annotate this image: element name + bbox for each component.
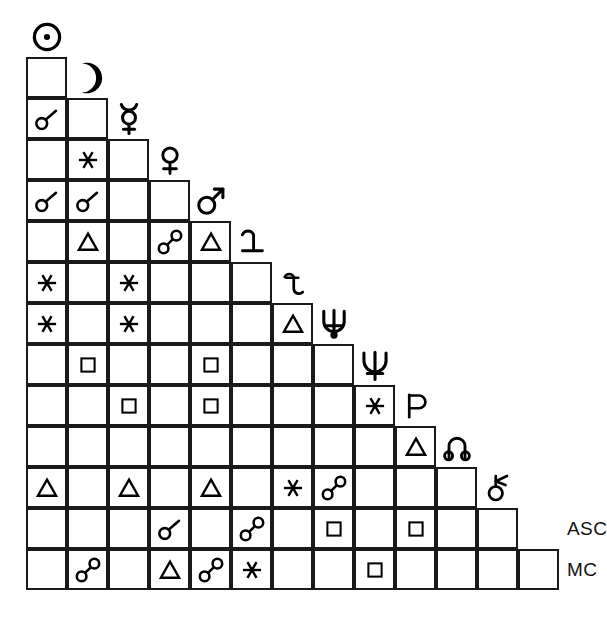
planet-header-jupiter[interactable] xyxy=(231,221,272,262)
aspect-cell-neptune-venus[interactable] xyxy=(149,344,190,385)
aspect-cell-venus-mercury[interactable] xyxy=(108,139,149,180)
aspect-cell-mc-lilith[interactable] xyxy=(477,549,518,590)
aspect-cell-lilith-mars[interactable] xyxy=(190,467,231,508)
aspect-cell-saturn-jupiter[interactable] xyxy=(231,262,272,303)
aspect-cell-node-uranus[interactable] xyxy=(313,426,354,467)
aspect-cell-lilith-pluto[interactable] xyxy=(395,467,436,508)
aspect-cell-node-moon[interactable] xyxy=(67,426,108,467)
aspect-cell-pluto-jupiter[interactable] xyxy=(231,385,272,426)
aspect-cell-node-mars[interactable] xyxy=(190,426,231,467)
aspect-cell-lilith-venus[interactable] xyxy=(149,467,190,508)
planet-header-node[interactable] xyxy=(436,426,477,467)
aspect-cell-uranus-mars[interactable] xyxy=(190,303,231,344)
aspect-cell-pluto-neptune[interactable] xyxy=(354,385,395,426)
aspect-cell-asc-mercury[interactable] xyxy=(108,508,149,549)
aspect-cell-neptune-mercury[interactable] xyxy=(108,344,149,385)
aspect-cell-node-saturn[interactable] xyxy=(272,426,313,467)
aspect-cell-asc-uranus[interactable] xyxy=(313,508,354,549)
aspect-cell-mc-moon[interactable] xyxy=(67,549,108,590)
aspect-cell-mc-jupiter[interactable] xyxy=(231,549,272,590)
aspect-cell-uranus-saturn[interactable] xyxy=(272,303,313,344)
aspect-cell-neptune-moon[interactable] xyxy=(67,344,108,385)
aspect-cell-pluto-venus[interactable] xyxy=(149,385,190,426)
aspect-cell-mc-mars[interactable] xyxy=(190,549,231,590)
planet-header-lilith[interactable] xyxy=(477,467,518,508)
aspect-cell-saturn-venus[interactable] xyxy=(149,262,190,303)
aspect-cell-mc-asc[interactable] xyxy=(518,549,559,590)
aspect-cell-lilith-uranus[interactable] xyxy=(313,467,354,508)
aspect-cell-saturn-sun[interactable] xyxy=(26,262,67,303)
aspect-cell-mars-venus[interactable] xyxy=(149,180,190,221)
aspect-cell-node-pluto[interactable] xyxy=(395,426,436,467)
aspect-cell-moon-sun[interactable] xyxy=(26,57,67,98)
aspect-cell-pluto-saturn[interactable] xyxy=(272,385,313,426)
aspect-cell-lilith-mercury[interactable] xyxy=(108,467,149,508)
aspect-cell-mc-uranus[interactable] xyxy=(313,549,354,590)
aspect-cell-node-jupiter[interactable] xyxy=(231,426,272,467)
aspect-cell-jupiter-venus[interactable] xyxy=(149,221,190,262)
aspect-cell-node-mercury[interactable] xyxy=(108,426,149,467)
aspect-cell-uranus-moon[interactable] xyxy=(67,303,108,344)
planet-header-mars[interactable] xyxy=(190,180,231,221)
aspect-cell-lilith-sun[interactable] xyxy=(26,467,67,508)
aspect-cell-mc-saturn[interactable] xyxy=(272,549,313,590)
aspect-cell-pluto-uranus[interactable] xyxy=(313,385,354,426)
aspect-cell-uranus-sun[interactable] xyxy=(26,303,67,344)
aspect-cell-pluto-moon[interactable] xyxy=(67,385,108,426)
aspect-cell-asc-node[interactable] xyxy=(436,508,477,549)
aspect-cell-asc-pluto[interactable] xyxy=(395,508,436,549)
aspect-cell-pluto-mercury[interactable] xyxy=(108,385,149,426)
aspect-cell-node-venus[interactable] xyxy=(149,426,190,467)
aspect-cell-node-neptune[interactable] xyxy=(354,426,395,467)
aspect-cell-uranus-venus[interactable] xyxy=(149,303,190,344)
planet-header-moon[interactable] xyxy=(67,57,108,98)
aspect-cell-mercury-sun[interactable] xyxy=(26,98,67,139)
aspect-cell-neptune-sun[interactable] xyxy=(26,344,67,385)
aspect-cell-lilith-jupiter[interactable] xyxy=(231,467,272,508)
aspect-cell-saturn-mercury[interactable] xyxy=(108,262,149,303)
aspect-cell-pluto-sun[interactable] xyxy=(26,385,67,426)
aspect-cell-asc-mars[interactable] xyxy=(190,508,231,549)
planet-header-saturn[interactable] xyxy=(272,262,313,303)
aspect-cell-asc-lilith[interactable] xyxy=(477,508,518,549)
aspect-cell-asc-saturn[interactable] xyxy=(272,508,313,549)
planet-header-venus[interactable] xyxy=(149,139,190,180)
aspect-cell-mc-neptune[interactable] xyxy=(354,549,395,590)
aspect-cell-neptune-mars[interactable] xyxy=(190,344,231,385)
aspect-cell-asc-jupiter[interactable] xyxy=(231,508,272,549)
aspect-cell-neptune-jupiter[interactable] xyxy=(231,344,272,385)
aspect-cell-saturn-moon[interactable] xyxy=(67,262,108,303)
aspect-cell-lilith-moon[interactable] xyxy=(67,467,108,508)
aspect-cell-mars-moon[interactable] xyxy=(67,180,108,221)
aspect-cell-neptune-uranus[interactable] xyxy=(313,344,354,385)
aspect-cell-mc-node[interactable] xyxy=(436,549,477,590)
aspect-cell-mars-sun[interactable] xyxy=(26,180,67,221)
aspect-cell-node-sun[interactable] xyxy=(26,426,67,467)
aspect-cell-lilith-neptune[interactable] xyxy=(354,467,395,508)
aspect-cell-jupiter-sun[interactable] xyxy=(26,221,67,262)
planet-header-neptune[interactable] xyxy=(354,344,395,385)
aspect-cell-venus-moon[interactable] xyxy=(67,139,108,180)
aspect-cell-asc-neptune[interactable] xyxy=(354,508,395,549)
aspect-cell-venus-sun[interactable] xyxy=(26,139,67,180)
aspect-cell-jupiter-moon[interactable] xyxy=(67,221,108,262)
aspect-cell-uranus-jupiter[interactable] xyxy=(231,303,272,344)
aspect-cell-mc-mercury[interactable] xyxy=(108,549,149,590)
aspect-cell-mc-venus[interactable] xyxy=(149,549,190,590)
aspect-cell-asc-sun[interactable] xyxy=(26,508,67,549)
planet-header-sun[interactable] xyxy=(26,16,67,57)
aspect-cell-asc-venus[interactable] xyxy=(149,508,190,549)
planet-header-mercury[interactable] xyxy=(108,98,149,139)
aspect-cell-mc-pluto[interactable] xyxy=(395,549,436,590)
aspect-cell-mc-sun[interactable] xyxy=(26,549,67,590)
planet-header-pluto[interactable] xyxy=(395,385,436,426)
aspect-cell-mercury-moon[interactable] xyxy=(67,98,108,139)
aspect-cell-pluto-mars[interactable] xyxy=(190,385,231,426)
aspect-cell-lilith-saturn[interactable] xyxy=(272,467,313,508)
aspect-cell-jupiter-mars[interactable] xyxy=(190,221,231,262)
aspect-cell-saturn-mars[interactable] xyxy=(190,262,231,303)
aspect-cell-neptune-saturn[interactable] xyxy=(272,344,313,385)
aspect-cell-asc-moon[interactable] xyxy=(67,508,108,549)
aspect-cell-lilith-node[interactable] xyxy=(436,467,477,508)
aspect-cell-uranus-mercury[interactable] xyxy=(108,303,149,344)
